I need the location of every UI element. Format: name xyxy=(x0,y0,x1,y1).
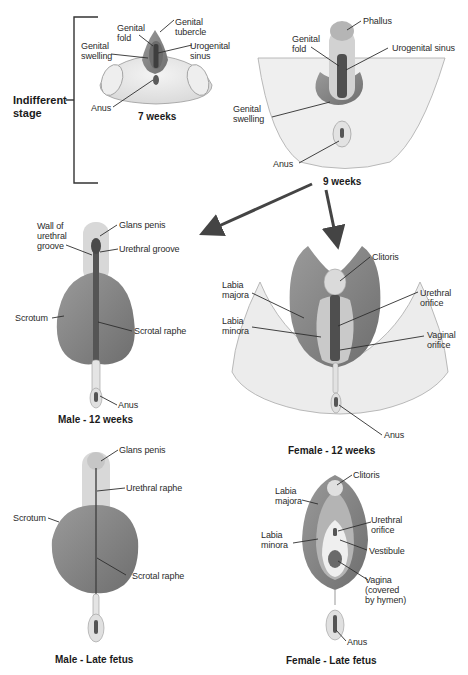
week9-caption: 9 weeks xyxy=(323,176,361,187)
male12-anus-label: Anus xyxy=(118,400,138,410)
week7-genital-swelling-label: Genital swelling xyxy=(81,41,112,61)
week9-anus-label: Anus xyxy=(273,159,293,169)
female-late-vestibule-label: Vestibule xyxy=(369,546,405,556)
week9-genital-swelling-label: Genital swelling xyxy=(233,104,264,124)
arrow-to-female xyxy=(326,190,336,238)
male-late-scrotum-label: Scrotum xyxy=(13,513,46,523)
arrow-to-male xyxy=(210,184,312,230)
female-late-vagina-label: Vagina (covered by hymen) xyxy=(365,575,406,605)
week9-urogenital-sinus-label: Urogenital sinus xyxy=(392,43,455,53)
male-late-scrotal-raphe-label: Scrotal raphe xyxy=(132,571,184,581)
week7-genital-fold-label: Genital fold xyxy=(117,23,145,43)
female12-clitoris-label: Clitoris xyxy=(372,252,399,262)
week7-genital-tubercle-label: Genital tubercle xyxy=(175,17,206,37)
male-late-fetus-illustration xyxy=(52,452,138,642)
genitalia-development-diagram: Indifferent stage Genital fold Genital t… xyxy=(0,0,468,675)
female12-vaginal-orifice-label: Vaginal orifice xyxy=(427,330,456,350)
male12-caption: Male - 12 weeks xyxy=(58,414,133,425)
female12-urethral-orifice-label: Urethral orifice xyxy=(420,288,451,308)
male12-wall-urethral-groove-label: Wall of urethral groove xyxy=(37,221,67,251)
female12-labia-minora-label: Labia minora xyxy=(222,316,249,336)
indifferent-stage-label: Indifferent stage xyxy=(13,94,67,120)
female-late-fetus-illustration xyxy=(302,475,368,640)
male12-urethral-groove-label: Urethral groove xyxy=(119,244,180,254)
week7-anus-label: Anus xyxy=(91,103,111,113)
female-late-anus-label: Anus xyxy=(347,637,367,647)
diagram-artwork xyxy=(0,0,468,675)
male12-glans-penis-label: Glans penis xyxy=(119,220,165,230)
female-late-labia-majora-label: Labia majora xyxy=(275,486,302,506)
male12-scrotum-label: Scrotum xyxy=(15,313,48,323)
female12-anus-label: Anus xyxy=(384,430,404,440)
week7-urogenital-sinus-label: Urogenital sinus xyxy=(190,41,230,61)
week9-genital-fold-label: Genital fold xyxy=(292,34,320,54)
female12-caption: Female - 12 weeks xyxy=(288,445,375,456)
female-late-labia-minora-label: Labia minora xyxy=(261,530,288,550)
male12-scrotal-raphe-label: Scrotal raphe xyxy=(134,326,186,336)
female-late-clitoris-label: Clitoris xyxy=(353,470,380,480)
male-late-glans-penis-label: Glans penis xyxy=(119,445,165,455)
male-late-caption: Male - Late fetus xyxy=(55,654,133,665)
female12-labia-majora-label: Labia majora xyxy=(222,280,249,300)
female-12-weeks-illustration xyxy=(232,246,448,414)
week7-caption: 7 weeks xyxy=(138,111,176,122)
female-late-caption: Female - Late fetus xyxy=(286,655,377,666)
female-late-urethral-orifice-label: Urethral orifice xyxy=(371,515,402,535)
week9-phallus-label: Phallus xyxy=(363,16,392,26)
male-late-urethral-raphe-label: Urethral raphe xyxy=(126,483,182,493)
